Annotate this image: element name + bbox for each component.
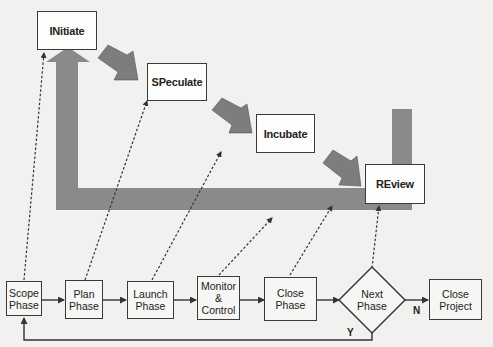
stage-transition-arrow-icon	[212, 98, 252, 133]
diagram-canvas: INitiate SPeculate Incubate REview Scope…	[0, 0, 493, 347]
stage-label: SPeculate	[152, 76, 203, 88]
phase-label: Launch Phase	[133, 288, 167, 312]
stage-initiate: INitiate	[37, 11, 97, 50]
phase-plan: Plan Phase	[65, 280, 103, 319]
stage-speculate: SPeculate	[147, 63, 207, 101]
stage-transition-arrow-icon	[98, 45, 138, 80]
stage-incubate: Incubate	[256, 114, 315, 153]
decision-label: Next Phase	[347, 288, 397, 312]
phase-label: Monitor & Control	[198, 280, 239, 316]
edge-label-no: N	[413, 305, 420, 316]
phase-label: Plan Phase	[69, 288, 99, 312]
phase-label: Close Project	[439, 288, 472, 312]
edge-label-yes: Y	[347, 327, 354, 338]
stage-review: REview	[365, 164, 425, 204]
stage-label: INitiate	[49, 25, 84, 37]
stage-label: REview	[376, 178, 414, 190]
phase-launch: Launch Phase	[127, 281, 174, 319]
stage-label: Incubate	[264, 128, 308, 140]
phase-label: Scope Phase	[9, 287, 39, 311]
phase-close: Close Phase	[264, 277, 317, 321]
stage-transition-arrow-icon	[323, 150, 361, 186]
phase-scope: Scope Phase	[6, 281, 42, 316]
phase-label: Close Phase	[276, 287, 306, 311]
close-project: Close Project	[429, 279, 482, 320]
phase-monitor-control: Monitor & Control	[197, 276, 240, 320]
